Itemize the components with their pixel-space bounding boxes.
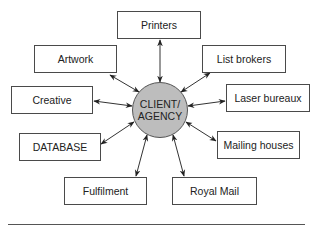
node-label: Printers xyxy=(141,19,177,31)
arrow-artwork xyxy=(110,75,139,92)
arrow-fulfilment xyxy=(136,135,147,176)
node-laser-bureaux: Laser bureaux xyxy=(226,84,310,112)
node-printers: Printers xyxy=(117,11,201,39)
node-label: Mailing houses xyxy=(223,139,293,151)
node-list-brokers: List brokers xyxy=(202,45,286,73)
node-creative: Creative xyxy=(11,86,93,114)
node-label: List brokers xyxy=(217,53,271,65)
node-label: Royal Mail xyxy=(190,185,239,197)
arrow-laser-bureaux xyxy=(188,101,225,106)
arrow-list-brokers xyxy=(181,73,210,92)
client-agency-diagram: CLIENT/ AGENCY Printers Artwork List bro… xyxy=(0,0,316,229)
arrow-database xyxy=(101,122,134,144)
node-artwork: Artwork xyxy=(34,45,117,73)
node-label: Creative xyxy=(32,94,71,106)
bottom-divider xyxy=(8,224,305,225)
arrow-royal-mail xyxy=(173,135,184,176)
arrow-creative xyxy=(94,101,132,106)
node-label: Artwork xyxy=(58,53,94,65)
node-label: Fulfilment xyxy=(83,185,129,197)
hub-label-line1: CLIENT/ xyxy=(140,98,180,110)
node-royal-mail: Royal Mail xyxy=(172,177,257,205)
node-label: DATABASE xyxy=(33,141,87,153)
client-agency-hub: CLIENT/ AGENCY xyxy=(132,82,188,138)
node-label: Laser bureaux xyxy=(234,92,301,104)
arrow-mailing-houses xyxy=(186,122,216,141)
node-mailing-houses: Mailing houses xyxy=(217,131,300,159)
node-database: DATABASE xyxy=(19,133,101,161)
node-fulfilment: Fulfilment xyxy=(64,177,147,205)
hub-label-line2: AGENCY xyxy=(138,110,182,122)
